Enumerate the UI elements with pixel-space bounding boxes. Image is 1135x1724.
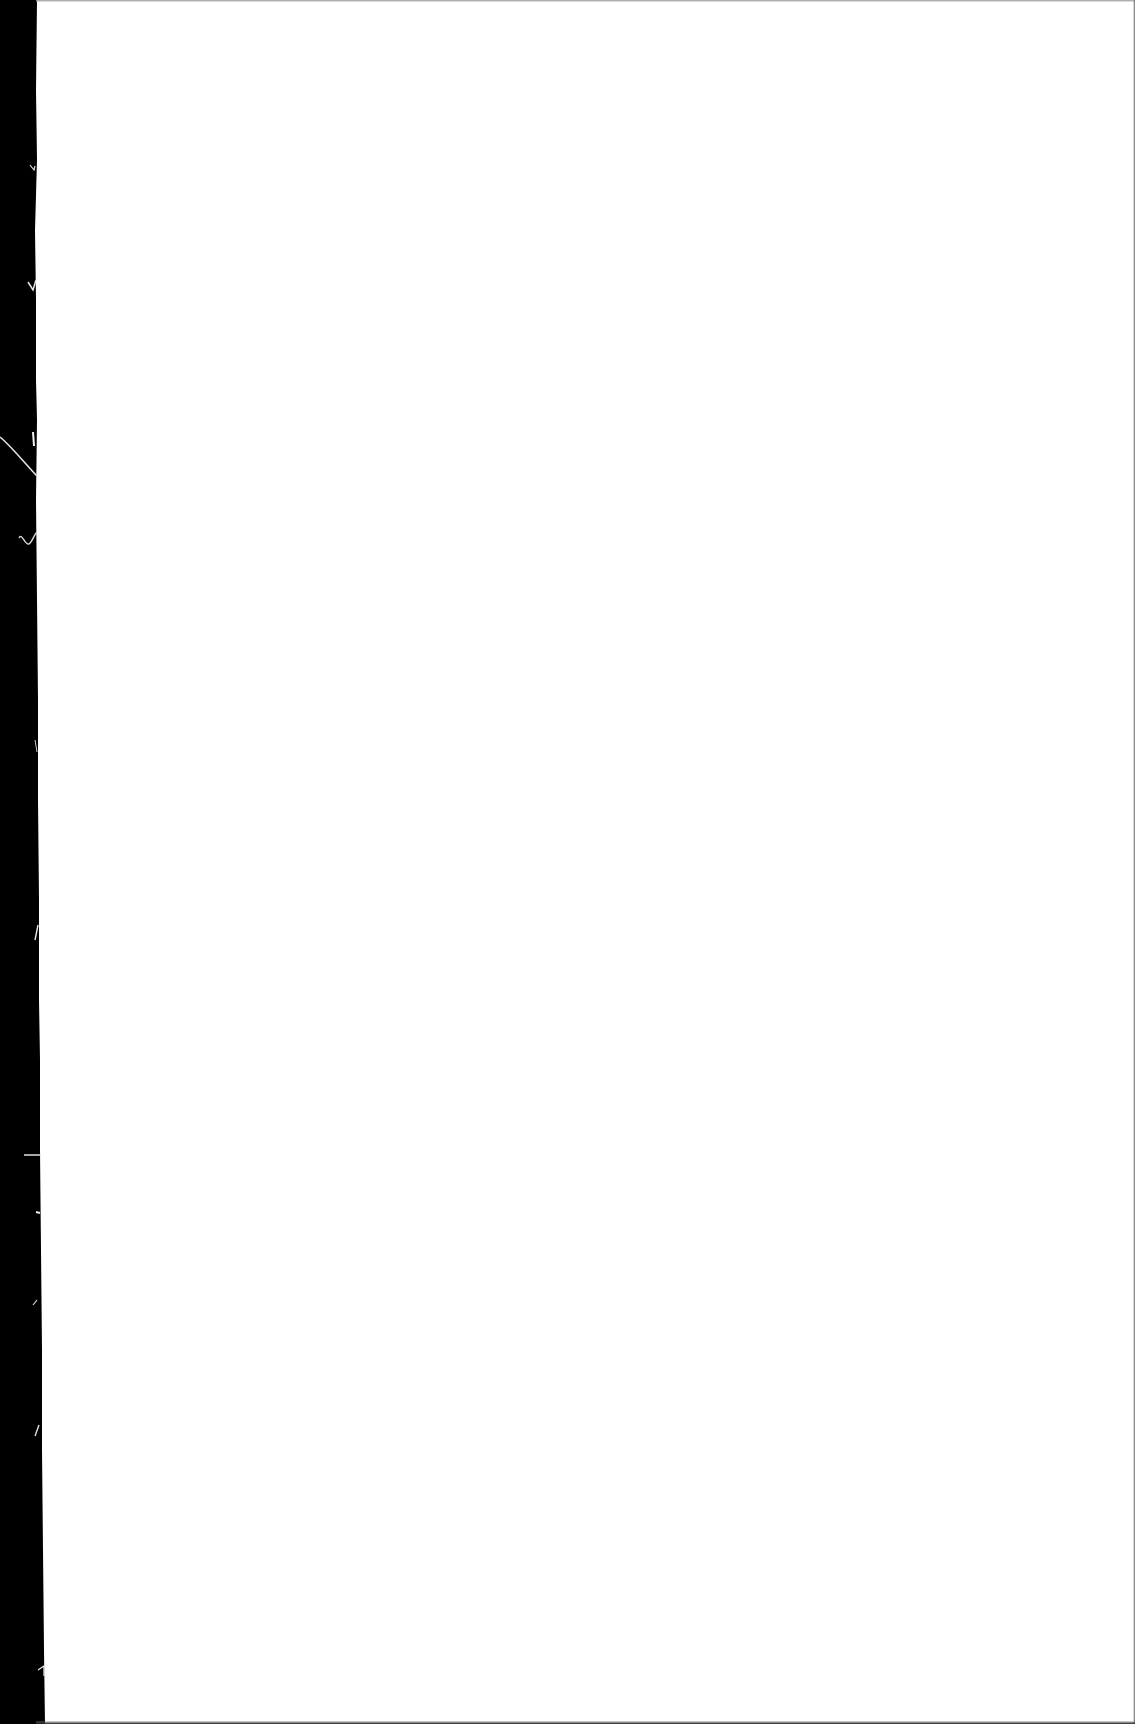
- page-content-area: [116, 60, 1075, 1664]
- scan-edge-top: [36, 0, 1135, 2]
- scan-binding-edge-left: [0, 0, 46, 1724]
- scan-edge-shape: [0, 0, 46, 1724]
- scanned-page: [0, 0, 1135, 1724]
- blank-paper-sheet: [36, 0, 1135, 1724]
